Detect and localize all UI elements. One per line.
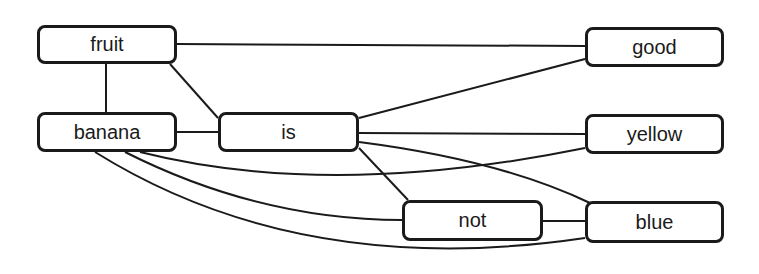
node-label: yellow [627,123,683,146]
node-label: blue [636,211,674,234]
node-label: not [459,209,487,232]
node-label: fruit [90,33,123,56]
node-blue[interactable]: blue [585,201,724,243]
node-banana[interactable]: banana [37,112,177,152]
node-label: good [632,36,677,59]
edge-is-yellow [359,133,585,134]
node-good[interactable]: good [585,27,724,67]
edge-banana-not [125,152,402,220]
edge-fruit-good [177,44,585,46]
edge-fruit-is [170,64,218,118]
node-is[interactable]: is [218,112,359,152]
node-yellow[interactable]: yellow [585,114,724,154]
node-label: banana [74,121,141,144]
node-not[interactable]: not [402,200,543,241]
edge-is-good [359,59,585,118]
node-fruit[interactable]: fruit [37,25,177,64]
node-label: is [281,121,295,144]
